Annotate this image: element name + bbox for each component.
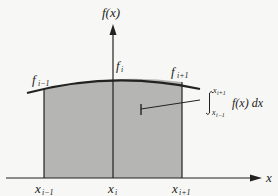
x-axis-label: x <box>265 170 272 185</box>
x-axis-arrow-icon <box>250 175 262 182</box>
tick-x-i-plus-1: x i+1 <box>171 181 191 196</box>
svg-text:i+1: i+1 <box>217 90 226 96</box>
svg-text:i−1: i−1 <box>216 112 225 118</box>
svg-text:f(x) dx: f(x) dx <box>232 96 264 110</box>
label-f-i-plus-1: f i+1 <box>171 64 189 80</box>
svg-text:i−1: i−1 <box>42 188 54 196</box>
tick-x-i-minus-1: x i−1 <box>34 181 54 196</box>
svg-text:i+1: i+1 <box>179 188 191 196</box>
svg-text:i: i <box>121 65 123 74</box>
svg-text:x: x <box>171 181 178 196</box>
tick-x-i: x i <box>107 181 117 196</box>
y-axis-arrow-icon <box>110 24 117 35</box>
svg-text:i: i <box>115 188 117 196</box>
y-axis-label: f(x) <box>102 5 120 20</box>
label-f-i-minus-1: f i−1 <box>32 72 50 88</box>
integral-expression: x i+1 x i−1 f(x) dx <box>206 86 264 118</box>
label-f-i: f i <box>116 58 123 74</box>
svg-text:x: x <box>34 181 41 196</box>
svg-text:i−1: i−1 <box>38 79 50 88</box>
svg-text:x: x <box>107 181 114 196</box>
integral-diagram: f(x) x f i−1 f i f i+1 x i−1 x i x i+1 x… <box>0 0 278 196</box>
svg-text:i+1: i+1 <box>177 71 189 80</box>
